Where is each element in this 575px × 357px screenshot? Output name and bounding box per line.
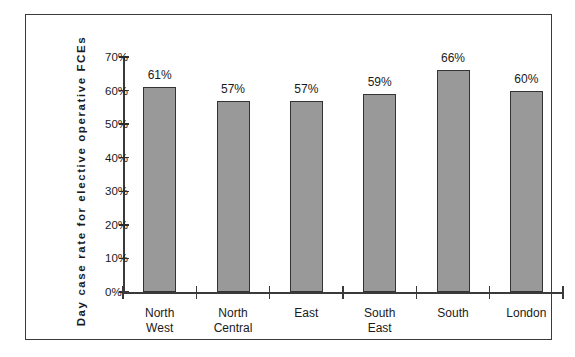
y-axis-tick-label: 50% [105,118,114,130]
bar [217,101,250,292]
y-axis-tick-label: 0% [105,286,114,298]
bar [143,87,176,292]
bar-value-label: 66% [441,51,465,65]
x-axis-tick [196,286,198,299]
x-axis-tick [562,286,564,299]
x-axis-category-label: NorthCentral [214,306,253,336]
x-axis-category-label: SouthEast [364,306,395,336]
y-axis-tick-label: 20% [105,219,114,231]
x-axis-tick [342,286,344,299]
x-axis-category-label-line: South [364,306,395,321]
x-axis-category-label-line: South [437,306,468,321]
bar [363,94,396,292]
bar-value-label: 61% [148,68,172,82]
x-axis-tick [122,286,124,299]
bar-value-label: 59% [368,75,392,89]
y-axis-tick-label: 10% [105,252,114,264]
x-axis-category-label-line: Central [214,321,253,336]
x-axis-category-label: South [437,306,468,321]
x-axis-category-label-line: East [364,321,395,336]
bar-value-label: 60% [514,72,538,86]
y-axis-tick-label: 70% [105,51,114,63]
x-axis-category-label: East [294,306,318,321]
x-axis-category-label-line: North [145,306,174,321]
bar [290,101,323,292]
x-axis-tick [489,286,491,299]
chart-frame: Day case rate for elective operative FCE… [25,14,552,340]
x-axis-category-label-line: East [294,306,318,321]
x-axis-category-label-line: North [214,306,253,321]
x-axis-category-label-line: West [145,321,174,336]
bar-value-label: 57% [221,82,245,96]
x-axis-tick [416,286,418,299]
y-axis-tick-label: 40% [105,152,114,164]
y-axis-tick-label: 30% [105,185,114,197]
y-axis-title: Day case rate for elective operative FCE… [70,31,92,331]
x-axis-category-label: London [506,306,546,321]
y-axis-tick-label: 60% [105,85,114,97]
bar [437,70,470,292]
x-axis-category-label: NorthWest [145,306,174,336]
x-axis-tick [269,286,271,299]
bar-value-label: 57% [294,82,318,96]
x-axis-category-label-line: London [506,306,546,321]
bar [510,91,543,292]
plot-area: 0%10%20%30%40%50%60%70% 61%57%57%59%66%6… [123,57,563,292]
